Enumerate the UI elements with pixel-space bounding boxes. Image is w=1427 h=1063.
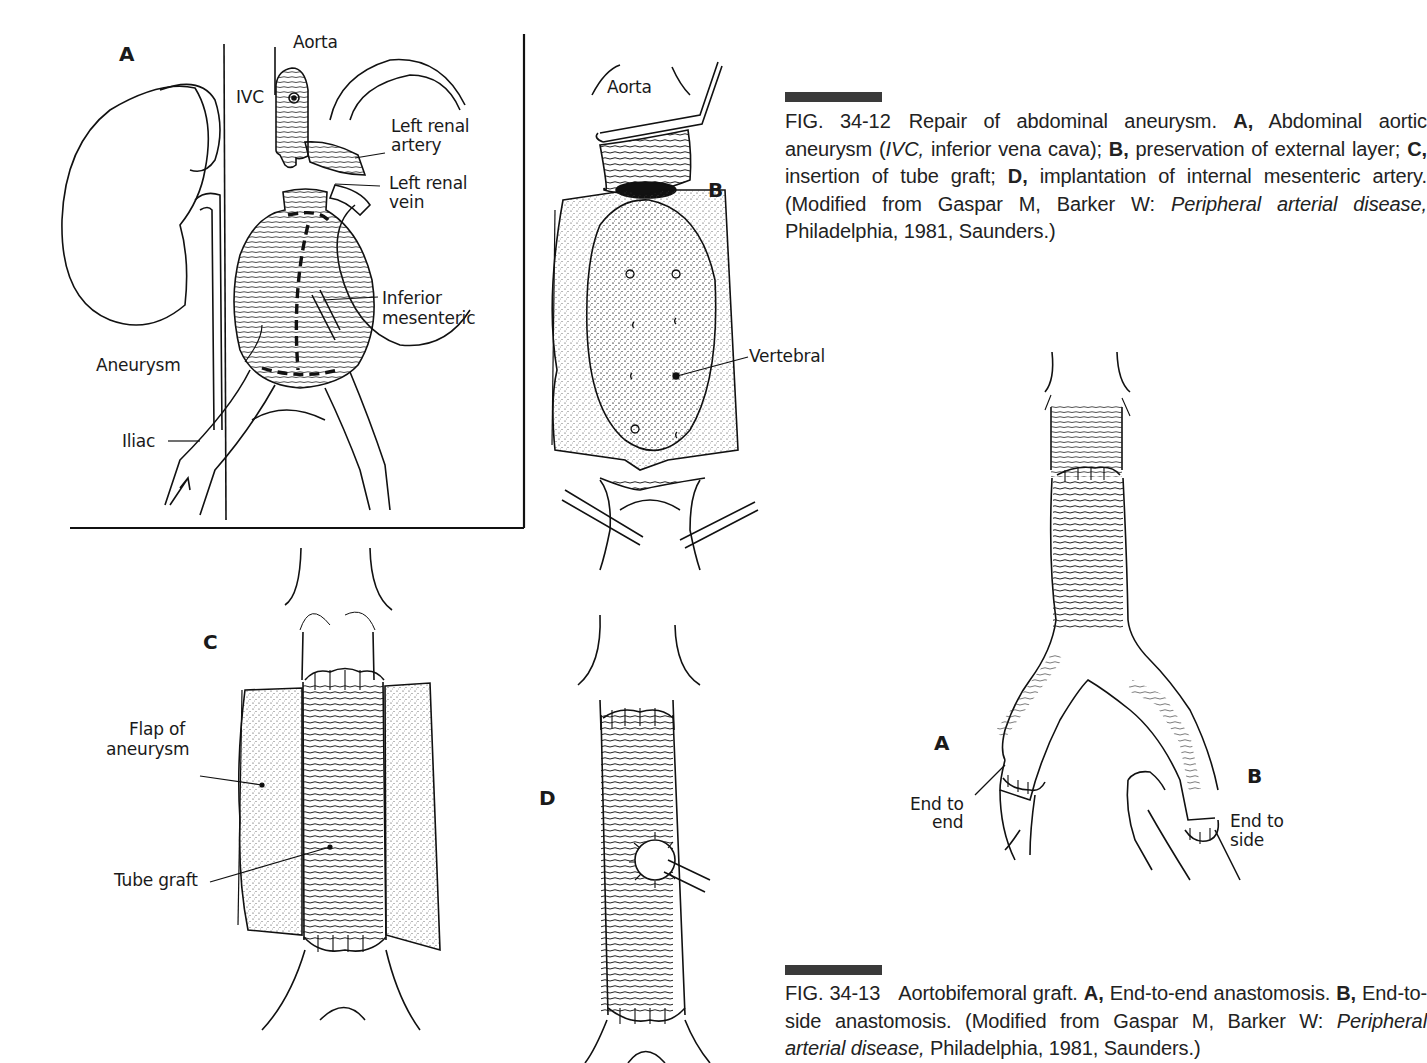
caption-text: Aortobifemoral graft. (898, 982, 1084, 1004)
caption-fig-34-13: FIG. 34-13Aortobifemoral graft. A, End-t… (785, 980, 1427, 1063)
fig-34-13-drawing (975, 352, 1240, 880)
label-left-renal-vein-line2: vein (389, 193, 424, 212)
panel-b-drawing (552, 62, 758, 570)
caption-ref-a: A, (1084, 982, 1104, 1004)
label-end-to-end-line2: end (932, 813, 963, 832)
label-flap-line2: aneurysm (106, 740, 189, 759)
panel-d-letter: D (539, 786, 556, 810)
caption-text: Repair of abdominal aneurysm. (909, 110, 1234, 132)
panel-c-drawing (200, 548, 440, 1030)
caption-text: insertion of tube graft; (785, 165, 1008, 187)
label-end-to-side-line2: side (1230, 831, 1264, 850)
panel-c-letter: C (203, 630, 218, 654)
label-left-renal-artery-line1: Left renal (391, 117, 469, 136)
label-left-renal-artery-line2: artery (391, 136, 441, 155)
caption-text: inferior vena cava); (924, 138, 1109, 160)
caption-fig-34-12: FIG. 34-12Repair of abdominal aneurysm. … (785, 108, 1427, 246)
panel-d-drawing (578, 615, 710, 1063)
caption-text: Philadelphia, 1981, Saunders.) (924, 1037, 1200, 1059)
label-flap-line1: Flap of (129, 720, 185, 739)
label-iliac: Iliac (122, 432, 155, 451)
label-aorta: Aorta (293, 33, 338, 52)
caption-abbrev: IVC, (886, 138, 925, 160)
caption-bar-34-13 (785, 965, 882, 975)
label-aorta-b: Aorta (607, 78, 652, 97)
fig-number: FIG. 34-12 (785, 110, 891, 132)
fig13-letter-b: B (1247, 764, 1262, 788)
caption-ref-b: B, (1109, 138, 1129, 160)
caption-text: preservation of external layer; (1129, 138, 1408, 160)
fig-number: FIG. 34-13 (785, 982, 880, 1004)
label-vertebral: Vertebral (749, 347, 825, 366)
fig13-letter-a: A (934, 731, 949, 755)
label-tube-graft: Tube graft (114, 871, 198, 890)
label-ivc: IVC (236, 88, 264, 107)
caption-bar-34-12 (785, 92, 882, 102)
label-inferior-mesenteric-line1: Inferior (382, 289, 442, 308)
caption-text: End-to-end anastomosis. (1104, 982, 1337, 1004)
label-aneurysm: Aneurysm (96, 356, 181, 375)
label-left-renal-vein-line1: Left renal (389, 174, 467, 193)
label-inferior-mesenteric-line2: mesenteric (382, 309, 475, 328)
caption-ref-d: D, (1008, 165, 1028, 187)
label-end-to-side-line1: End to (1230, 812, 1284, 831)
caption-text: Philadelphia, 1981, Saunders.) (785, 220, 1056, 242)
panel-a-letter: A (119, 42, 134, 66)
panel-b-letter: B (708, 178, 723, 202)
caption-ref-b: B, (1336, 982, 1356, 1004)
caption-ref-c: C, (1407, 138, 1427, 160)
caption-ref-a: A, (1233, 110, 1253, 132)
caption-book-title: Peripheral arterial disease, (1171, 193, 1427, 215)
